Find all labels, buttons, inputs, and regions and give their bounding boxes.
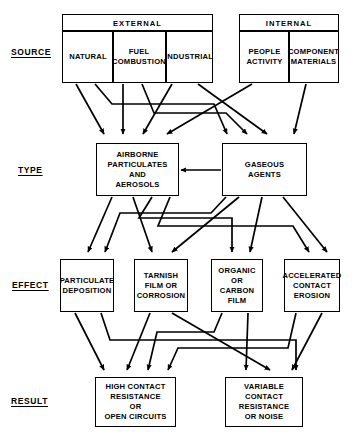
source-node-natural-label: NATURAL [69,52,107,62]
source-node-people-activity-line2: ACTIVITY [246,57,282,67]
result-node-high-line2: RESISTANCE [110,392,160,402]
source-node-natural[interactable]: NATURAL [64,31,112,82]
type-node-airborne-line1: AIRBORNE [116,150,158,160]
edge-tarnish-high [127,313,150,370]
source-node-fuel-combustion-line2: COMBUSTION [112,57,166,67]
effect-node-tarnish-line3: CORROSION [137,291,186,301]
edge-gaseous-tarnish [172,197,239,252]
effect-node-organic-line3: FILM [228,296,247,306]
type-node-airborne-line4: AEROSOLS [115,180,159,190]
effect-node-tarnish-film-corrosion[interactable]: TARNISH FILM OR CORROSION [134,259,188,312]
source-to-type-edges [76,84,306,134]
effect-node-accelerated-contact-erosion[interactable]: ACCELERATED CONTACT EROSION [284,259,340,312]
type-node-airborne-line2: PARTICULATES [108,160,168,170]
effect-node-organic-carbon-film[interactable]: ORGANIC OR CARBON FILM [211,259,263,312]
type-node-gaseous-line2: AGENTS [248,170,281,180]
edge-airborne-tarnish [133,197,152,252]
edge-gaseous-erosion [283,197,327,252]
result-node-variable-line1: VARIABLE [244,382,284,392]
type-node-airborne-particulates[interactable]: AIRBORNE PARTICULATES AND AEROSOLS [96,143,179,196]
effect-node-erosion-line3: EROSION [294,291,330,301]
effect-node-erosion-line1: ACCELERATED [283,271,342,281]
source-node-component-materials-line2: MATERIALS [291,57,337,67]
effect-node-organic-line1: ORGANIC [218,266,255,276]
result-node-high-line4: OPEN CIRCUITS [104,412,166,422]
source-node-fuel-combustion-line1: FUEL [129,47,150,57]
result-node-high-line1: HIGH CONTACT [105,382,165,392]
row-label-result: RESULT [11,396,48,406]
edge-industrial-airborne [143,84,172,134]
result-node-variable-line3: RESISTANCE [239,402,289,412]
effect-node-tarnish-line1: TARNISH [144,271,179,281]
row-label-source: SOURCE [11,47,51,57]
edge-gaseous-particulate [105,197,226,252]
edge-tarnish-variable [172,313,270,370]
source-node-industrial-label: INDUSTRIAL [165,52,213,62]
type-node-gaseous-line1: GASEOUS [245,160,284,170]
source-node-component-materials-line1: COMPONENT [288,47,339,57]
result-node-high-contact-resistance[interactable]: HIGH CONTACT RESISTANCE OR OPEN CIRCUITS [95,377,176,427]
effect-node-particulate-deposition[interactable]: PARTICULATE DEPOSITION [60,259,114,312]
type-node-airborne-line3: AND [129,170,146,180]
type-node-gaseous-agents[interactable]: GASEOUS AGENTS [222,143,307,196]
group-internal-title: INTERNAL [240,19,338,28]
result-node-high-line3: OR [130,402,142,412]
source-node-people-activity[interactable]: PEOPLE ACTIVITY [241,31,288,82]
effect-node-tarnish-line2: FILM OR [145,281,178,291]
source-node-people-activity-line1: PEOPLE [248,47,280,57]
edge-gaseous-organic [250,197,262,252]
row-label-effect: EFFECT [12,280,49,290]
edge-component-gaseous [294,84,306,134]
edge-organic-variable [246,313,248,370]
row-label-type: TYPE [18,165,43,175]
effect-node-erosion-line2: CONTACT [293,281,331,291]
edge-organic-high [148,313,222,370]
source-node-fuel-combustion[interactable]: FUEL COMBUSTION [113,31,165,82]
result-node-variable-contact-resistance[interactable]: VARIABLE CONTACT RESISTANCE OR NOISE [225,377,303,427]
edge-natural-airborne [76,84,104,134]
effect-node-particulate-line2: DEPOSITION [63,286,112,296]
source-node-industrial[interactable]: INDUSTRIAL [166,31,212,82]
effect-node-particulate-line1: PARTICULATE [60,276,115,286]
group-external-title: EXTERNAL [63,19,212,28]
edge-airborne-erosion [158,197,309,252]
contamination-flow-diagram: SOURCE TYPE EFFECT RESULT EXTERNAL NATUR… [0,0,355,437]
effect-to-result-edges [75,313,322,370]
edge-particulate-high [75,313,104,370]
effect-node-organic-line2: OR CARBON [213,276,261,296]
source-node-component-materials[interactable]: COMPONENT MATERIALS [289,31,338,82]
result-node-variable-line4: OR NOISE [245,412,284,422]
result-node-variable-line2: CONTACT [245,392,283,402]
type-to-effect-edges [88,197,327,252]
